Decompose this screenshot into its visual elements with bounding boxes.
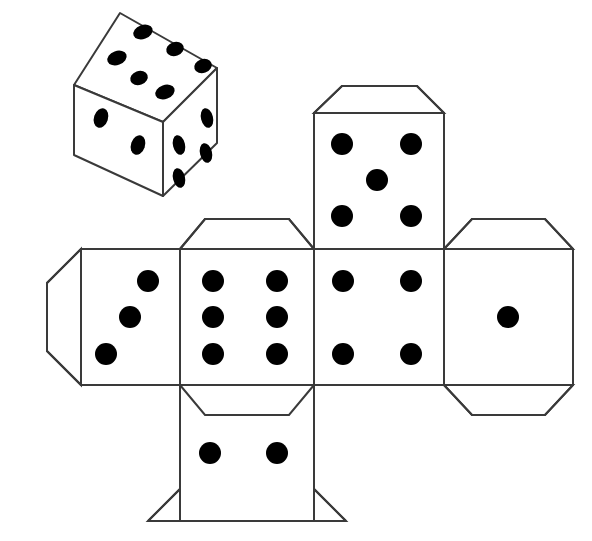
net-pip	[266, 442, 288, 464]
net-pip	[366, 169, 388, 191]
net-pip	[332, 270, 354, 292]
net-pip	[331, 205, 353, 227]
net-pip	[95, 343, 117, 365]
net-pip	[119, 306, 141, 328]
net-pip	[331, 133, 353, 155]
net-panel-four-outline	[314, 249, 444, 385]
net-panel-six-outline	[180, 249, 314, 385]
net-pip	[266, 270, 288, 292]
net-pip	[400, 270, 422, 292]
net-pip	[400, 133, 422, 155]
net-pip	[400, 205, 422, 227]
net-panel-four	[314, 249, 444, 385]
net-pip	[202, 270, 224, 292]
net-panel-two	[180, 385, 314, 521]
net-panel-five	[314, 113, 444, 249]
net-pip	[202, 343, 224, 365]
net-pip	[497, 306, 519, 328]
net-pip	[137, 270, 159, 292]
net-pip	[266, 343, 288, 365]
net-pip	[202, 306, 224, 328]
net-panel-three	[81, 249, 180, 385]
net-panel-six	[180, 249, 314, 385]
net-pip	[266, 306, 288, 328]
net-panel-one	[444, 249, 573, 385]
net-pip	[332, 343, 354, 365]
dice-net-figure	[0, 0, 592, 541]
net-pip	[400, 343, 422, 365]
net-pip	[199, 442, 221, 464]
